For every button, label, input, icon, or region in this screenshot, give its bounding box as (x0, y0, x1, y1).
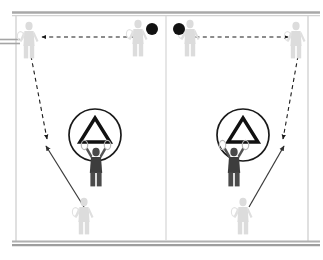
court-surface (16, 16, 308, 241)
ball-right (173, 23, 185, 35)
ball-left (146, 23, 158, 35)
court-diagram-svg (0, 0, 323, 260)
drill-diagram-canvas (0, 0, 323, 260)
